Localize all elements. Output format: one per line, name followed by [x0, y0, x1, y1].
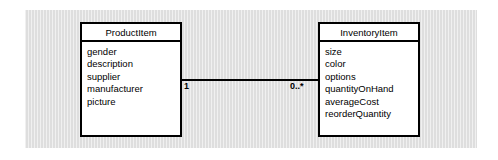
attribute-compartment-productitem: gender description supplier manufacturer… — [82, 42, 180, 135]
attribute-item: supplier — [87, 71, 180, 83]
attribute-item: options — [325, 71, 418, 83]
attribute-item: quantityOnHand — [325, 83, 418, 95]
attribute-item: color — [325, 58, 418, 70]
multiplicity-target: 0..* — [290, 81, 304, 91]
attribute-item: gender — [87, 46, 180, 58]
attribute-item: description — [87, 58, 180, 70]
class-name-productitem: ProductItem — [82, 24, 180, 42]
attribute-item: manufacturer — [87, 83, 180, 95]
class-name-inventoryitem: InventoryItem — [320, 24, 418, 42]
class-box-productitem[interactable]: ProductItem gender description supplier … — [80, 22, 182, 137]
attribute-item: size — [325, 46, 418, 58]
attribute-item: averageCost — [325, 96, 418, 108]
diagram-canvas: 1 0..* ProductItem gender description su… — [0, 0, 498, 160]
attribute-compartment-inventoryitem: size color options quantityOnHand averag… — [320, 42, 418, 135]
class-box-inventoryitem[interactable]: InventoryItem size color options quantit… — [318, 22, 420, 137]
attribute-item: reorderQuantity — [325, 108, 418, 120]
attribute-item: picture — [87, 96, 180, 108]
multiplicity-source: 1 — [184, 81, 189, 91]
